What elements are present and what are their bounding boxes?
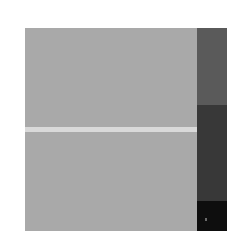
- grayscale-side-bar: [197, 28, 227, 231]
- side-bar-segment-bottom: [197, 201, 227, 231]
- side-bar-segment-middle: [197, 105, 227, 201]
- light-horizontal-stripe: [25, 127, 197, 132]
- side-bar-segment-top: [197, 28, 227, 105]
- small-light-dot: [205, 218, 207, 221]
- figure-canvas: [0, 0, 235, 247]
